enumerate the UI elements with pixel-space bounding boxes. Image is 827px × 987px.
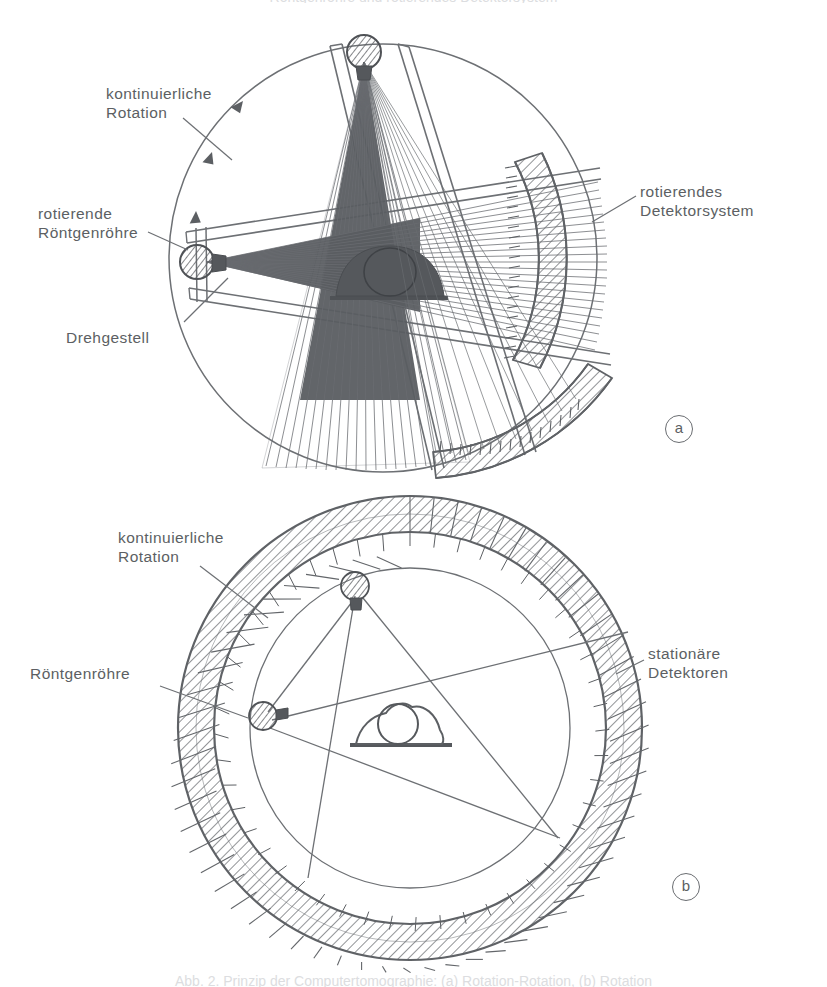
panel-marker-b: b	[672, 873, 700, 901]
label-rotating-xray-tube: rotierende Röntgenröhre	[38, 204, 138, 242]
xray-tube-top-b	[341, 572, 369, 610]
label-continuous-rotation-b: kontinuierliche Rotation	[118, 528, 224, 566]
panel-b	[160, 496, 649, 973]
panel-marker-a: a	[665, 415, 693, 443]
label-xray-tube-b: Röntgenröhre	[30, 664, 130, 683]
stationary-detector-ring	[178, 496, 643, 960]
label-rotating-detector-system: rotierendes Detektorsystem	[640, 182, 754, 220]
panel-a	[148, 35, 636, 478]
patient-on-table	[350, 703, 452, 745]
label-stationary-detectors: stationäre Detektoren	[648, 644, 728, 682]
label-rotating-gantry: Drehgestell	[66, 328, 149, 347]
xray-tube-top	[347, 35, 381, 80]
label-continuous-rotation-a: kontinuierliche Rotation	[106, 84, 212, 122]
xray-tube-left-b	[249, 702, 288, 730]
cut-off-caption-bottom: Abb. 2. Prinzip der Computertomographie:…	[0, 973, 827, 987]
rotation-path-circle	[250, 568, 570, 888]
